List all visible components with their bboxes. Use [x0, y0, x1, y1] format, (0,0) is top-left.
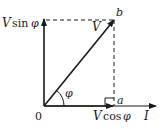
- label-vcos-V: V: [93, 109, 103, 123]
- phasor-diagram: V sin φ b V φ a 0 V cos φ I: [0, 0, 162, 129]
- label-I: I: [143, 109, 149, 123]
- label-V: V: [92, 20, 102, 34]
- label-vsin-arg: φ: [31, 17, 39, 30]
- v-phasor: [44, 20, 114, 106]
- label-vcos-arg: φ: [123, 110, 131, 123]
- label-vcos-fn: cos: [103, 110, 122, 123]
- label-vsin-V: V: [2, 16, 12, 30]
- angle-arc: [57, 91, 64, 107]
- label-a: a: [117, 94, 124, 107]
- right-angle-marker: [105, 98, 114, 106]
- label-vsin-fn: sin: [12, 17, 28, 30]
- label-origin: 0: [35, 110, 42, 123]
- label-phi: φ: [65, 87, 73, 100]
- label-b: b: [116, 6, 123, 19]
